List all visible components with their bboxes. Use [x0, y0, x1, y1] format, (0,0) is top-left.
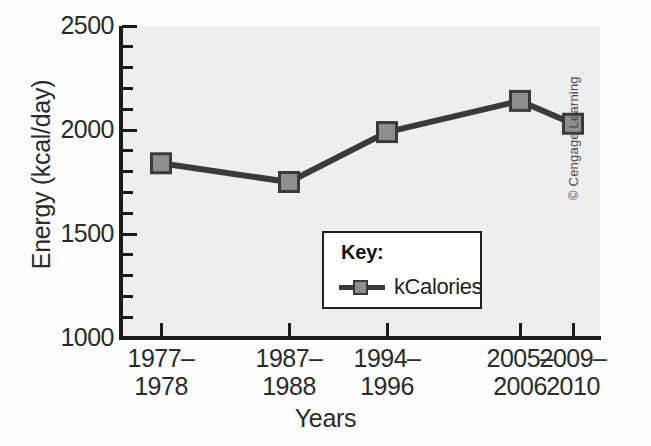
y-axis-minor-tick	[122, 45, 133, 48]
y-axis-minor-tick	[122, 191, 133, 194]
y-axis-minor-tick	[122, 170, 133, 173]
x-axis-tick	[160, 323, 163, 337]
series-line-kcalories	[161, 101, 573, 182]
copyright-credit: © Cengage Learning	[566, 40, 581, 200]
x-axis-tick	[288, 323, 291, 337]
data-point-marker	[152, 154, 171, 173]
x-axis-tick	[386, 323, 389, 337]
x-axis-tick-label: 1994–1996	[353, 344, 420, 400]
x-axis-tick	[519, 323, 522, 337]
data-point-marker	[280, 173, 299, 192]
y-axis-major-tick	[122, 233, 137, 236]
x-axis-tick	[572, 323, 575, 337]
y-axis-minor-tick	[122, 274, 133, 277]
y-axis-major-tick	[122, 129, 137, 132]
x-axis-line	[119, 336, 601, 340]
y-axis-major-tick	[122, 337, 137, 340]
y-axis-major-tick	[122, 25, 137, 28]
chart-figure: 2500200015001000 1977–19781987–19881994–…	[0, 0, 651, 446]
x-axis-tick-label: 1977–1978	[127, 344, 194, 400]
data-point-marker	[378, 123, 397, 142]
legend-marker-icon	[339, 278, 385, 296]
y-axis-minor-tick	[122, 295, 133, 298]
y-axis-line	[119, 26, 123, 340]
y-axis-title: Energy (kcal/day)	[27, 50, 56, 300]
y-axis-tick-label: 1500	[2, 219, 114, 248]
data-point-marker	[511, 91, 530, 110]
x-axis-title: Years	[0, 404, 651, 433]
y-axis-minor-tick	[122, 87, 133, 90]
legend-title: Key:	[341, 241, 384, 264]
y-axis-minor-tick	[122, 108, 133, 111]
legend: Key: kCalories	[322, 231, 482, 309]
y-axis-minor-tick	[122, 149, 133, 152]
y-axis-minor-tick	[122, 212, 133, 215]
y-axis-minor-tick	[122, 66, 133, 69]
y-axis-minor-tick	[122, 316, 133, 319]
x-axis-tick-label: 1987–1988	[255, 344, 322, 400]
y-axis-tick-label: 1000	[2, 323, 114, 352]
legend-entry-label: kCalories	[394, 274, 482, 300]
x-axis-tick-label: 2009–2010	[539, 344, 606, 400]
y-axis-minor-tick	[122, 253, 133, 256]
y-axis-tick-label: 2000	[2, 115, 114, 144]
y-axis-tick-label: 2500	[2, 11, 114, 40]
legend-entry-kcalories: kCalories	[339, 274, 482, 300]
